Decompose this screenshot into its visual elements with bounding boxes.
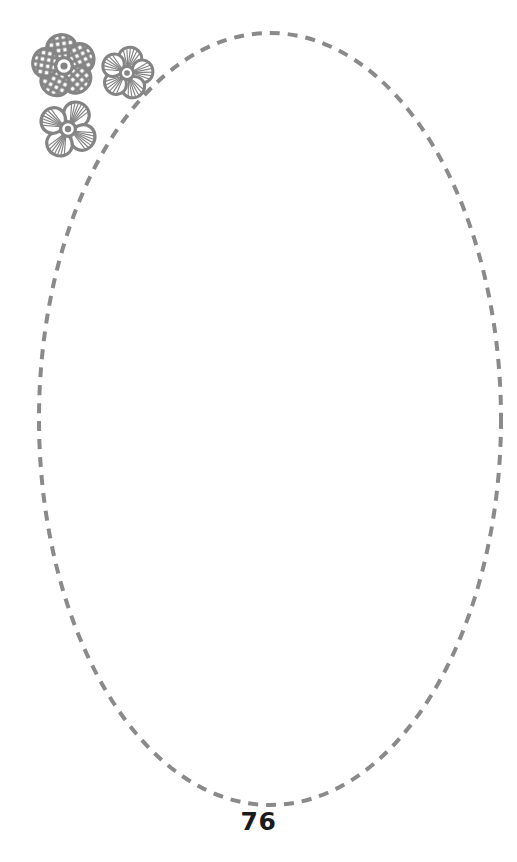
flower-center	[61, 122, 76, 137]
flower-medium-fan-petals	[28, 89, 107, 168]
flower-center	[56, 58, 73, 75]
flower-large-dashed-petals	[26, 30, 103, 104]
flower-center	[120, 66, 133, 79]
flower-small-striped-petals	[93, 41, 160, 106]
page-number: 76	[0, 806, 517, 838]
activity-page: 76	[0, 0, 517, 862]
flower-cluster-layer	[0, 0, 517, 862]
flower-cluster-svg	[0, 0, 517, 862]
